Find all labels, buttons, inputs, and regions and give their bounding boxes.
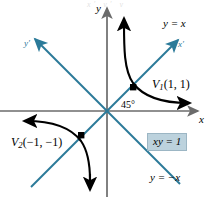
x-axis-label: x — [199, 114, 204, 125]
figure-canvas — [0, 0, 213, 197]
vertex-v1-label: V1(1, 1) — [152, 78, 190, 92]
y-axis-label: y — [96, 3, 101, 14]
vertex-v1-coords: (1, 1) — [164, 77, 190, 91]
vertex-v2-label: V2(−1, −1) — [11, 136, 62, 150]
vertex-v2-coords: (−1, −1) — [23, 135, 63, 149]
x-prime-axis-label: x′ — [178, 40, 184, 49]
line-y-equals-x-label: y = x — [163, 18, 186, 29]
line-y-equals-x — [31, 40, 178, 187]
hyperbola-figure: x′ y′ y — [0, 0, 213, 197]
vertex-v1-dot — [130, 84, 136, 90]
hyperbola-branch-lower-left — [24, 121, 90, 190]
equation-box: xy = 1 — [147, 133, 187, 151]
vertex-v2-dot — [78, 132, 84, 138]
angle-label-45: 45° — [121, 100, 135, 110]
y-prime-axis-label: y′ — [24, 39, 30, 48]
line-y-equals-minus-x-label: y = −x — [150, 172, 180, 183]
